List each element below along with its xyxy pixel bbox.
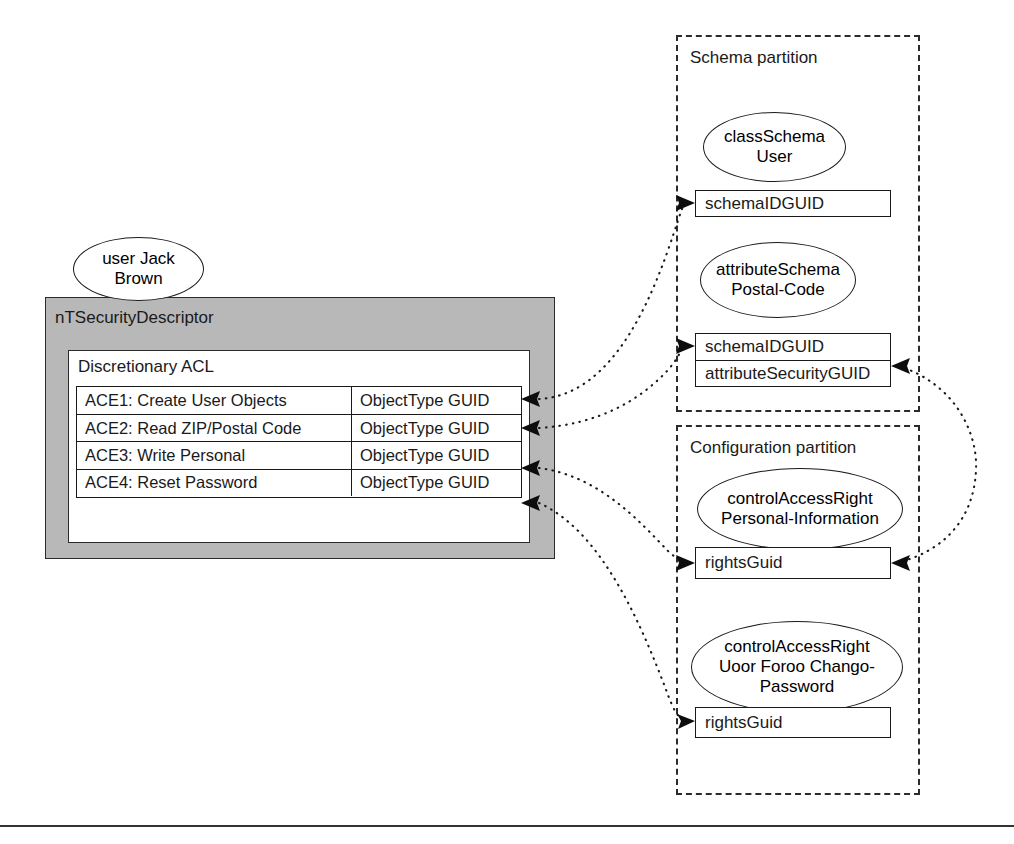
link-ace1-to-schemaidguid-user bbox=[539, 205, 684, 399]
diagram-canvas: user Jack Brown nTSecurityDescriptor Dis… bbox=[0, 0, 1014, 844]
user-object-ellipse[interactable]: user Jack Brown bbox=[73, 237, 204, 301]
ace-objecttype-guid: ObjectType GUID bbox=[352, 387, 521, 414]
classschema-user-ellipse[interactable]: classSchema User bbox=[703, 112, 846, 182]
attribute-attributesecurityguid[interactable]: attributeSecurityGUID bbox=[696, 360, 890, 386]
attribute-rightsguid[interactable]: rightsGuid bbox=[696, 548, 890, 578]
attributeschema-line2: Postal-Code bbox=[716, 280, 840, 300]
attribute-schemaidguid[interactable]: schemaIDGUID bbox=[696, 334, 890, 360]
table-row[interactable]: ACE1: Create User Objects ObjectType GUI… bbox=[77, 387, 521, 414]
user-object-line1: user Jack bbox=[102, 249, 175, 269]
configuration-partition-title: Configuration partition bbox=[690, 438, 856, 458]
attribute-schemaidguid[interactable]: schemaIDGUID bbox=[696, 191, 890, 216]
link-ace2-to-schemaidguid-postalcode bbox=[539, 347, 684, 428]
ace-name: ACE2: Read ZIP/Postal Code bbox=[77, 415, 352, 441]
ace-objecttype-guid: ObjectType GUID bbox=[352, 415, 521, 441]
ace-name: ACE4: Reset Password bbox=[77, 470, 352, 496]
classschema-line2: User bbox=[724, 147, 825, 167]
controlaccessright-force-change-password-ellipse[interactable]: controlAccessRight Uoor Foroo Chango- Pa… bbox=[691, 621, 903, 713]
personal-information-attributes-box: rightsGuid bbox=[695, 547, 891, 579]
discretionary-acl-title: Discretionary ACL bbox=[78, 357, 214, 377]
ntsecuritydescriptor-title: nTSecurityDescriptor bbox=[55, 308, 214, 328]
link-ace3-to-rightsguid-personal bbox=[539, 468, 684, 563]
attributeschema-postalcode-ellipse[interactable]: attributeSchema Postal-Code bbox=[700, 242, 856, 318]
force-change-password-line2: Uoor Foroo Chango- bbox=[719, 657, 875, 677]
attributeschema-attributes-box: schemaIDGUID attributeSecurityGUID bbox=[695, 333, 891, 387]
attribute-rightsguid[interactable]: rightsGuid bbox=[696, 708, 890, 737]
schema-partition-title: Schema partition bbox=[690, 48, 818, 68]
classschema-line1: classSchema bbox=[724, 127, 825, 147]
ace-objecttype-guid: ObjectType GUID bbox=[352, 442, 521, 468]
force-change-password-line3: Password bbox=[719, 677, 875, 697]
table-row[interactable]: ACE2: Read ZIP/Postal Code ObjectType GU… bbox=[77, 414, 521, 441]
link-ace4-to-rightsguid-forcechange bbox=[539, 503, 684, 721]
table-row[interactable]: ACE4: Reset Password ObjectType GUID bbox=[77, 469, 521, 496]
table-row[interactable]: ACE3: Write Personal ObjectType GUID bbox=[77, 441, 521, 468]
force-change-password-attributes-box: rightsGuid bbox=[695, 707, 891, 738]
ace-name: ACE1: Create User Objects bbox=[77, 387, 352, 414]
personal-information-line2: Personal-Information bbox=[721, 509, 879, 529]
controlaccessright-personal-information-ellipse[interactable]: controlAccessRight Personal-Information bbox=[697, 468, 903, 550]
attributeschema-line1: attributeSchema bbox=[716, 260, 840, 280]
force-change-password-line1: controlAccessRight bbox=[719, 637, 875, 657]
personal-information-line1: controlAccessRight bbox=[721, 489, 879, 509]
page-bottom-rule bbox=[0, 825, 1014, 827]
ace-objecttype-guid: ObjectType GUID bbox=[352, 470, 521, 496]
ace-name: ACE3: Write Personal bbox=[77, 442, 352, 468]
classschema-attributes-box: schemaIDGUID bbox=[695, 190, 891, 217]
user-object-line2: Brown bbox=[102, 269, 175, 289]
ace-table: ACE1: Create User Objects ObjectType GUI… bbox=[76, 386, 522, 498]
